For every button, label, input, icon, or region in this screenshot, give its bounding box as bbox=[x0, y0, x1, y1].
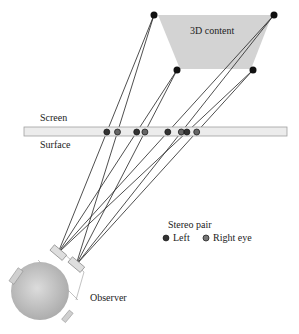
screen-point-right bbox=[142, 129, 148, 135]
content-point bbox=[151, 12, 158, 19]
content-point bbox=[250, 67, 257, 74]
screen-point-right bbox=[194, 129, 200, 135]
observer-label: Observer bbox=[90, 292, 127, 303]
legend-left-label: Left bbox=[173, 232, 190, 243]
ear-right bbox=[62, 310, 74, 322]
screen-surface-bar bbox=[24, 127, 287, 136]
legend-title: Stereo pair bbox=[168, 219, 212, 230]
sight-ray bbox=[58, 70, 253, 253]
sight-ray bbox=[58, 70, 177, 253]
content-point bbox=[174, 67, 181, 74]
legend-left-marker bbox=[163, 235, 169, 241]
screen-point-left bbox=[184, 129, 190, 135]
observer-head bbox=[9, 245, 85, 323]
stereo-diagram: 3D content Screen Surface Observer Stere… bbox=[0, 0, 299, 334]
screen-point-left bbox=[165, 129, 171, 135]
screen-point-right bbox=[178, 129, 184, 135]
right-eye-shutter bbox=[68, 257, 85, 273]
surface-label: Surface bbox=[40, 139, 71, 150]
legend-right-label: Right eye bbox=[213, 232, 252, 243]
screen-point-left bbox=[104, 129, 110, 135]
content-point bbox=[271, 12, 278, 19]
3d-content-region bbox=[158, 15, 272, 69]
3d-content-label: 3D content bbox=[190, 25, 234, 36]
screen-point-left bbox=[134, 129, 140, 135]
legend-right-marker bbox=[203, 235, 209, 241]
screen-label: Screen bbox=[40, 112, 67, 123]
legend: Stereo pair Left Right eye bbox=[163, 219, 252, 243]
screen-point-right bbox=[115, 129, 121, 135]
sight-ray bbox=[76, 70, 177, 265]
sight-ray bbox=[76, 15, 154, 265]
